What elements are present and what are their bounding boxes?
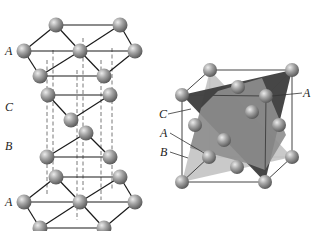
atom — [230, 160, 244, 174]
plane-label-a-left: A — [159, 126, 168, 140]
atom — [259, 89, 273, 103]
atom — [17, 195, 32, 210]
atom — [202, 150, 216, 164]
atom — [231, 80, 245, 94]
atom — [217, 133, 231, 147]
atom — [258, 175, 272, 189]
layer-b-bonds — [47, 133, 110, 157]
atom — [97, 69, 112, 84]
atom — [33, 221, 48, 232]
atom — [175, 88, 189, 102]
plane-label-a-right: A — [302, 86, 311, 100]
atom — [188, 118, 202, 132]
atom — [49, 170, 64, 185]
atom — [128, 44, 143, 59]
atom — [203, 63, 217, 77]
layer-label-c: C — [5, 100, 14, 114]
atom — [175, 175, 189, 189]
layer-label-a-top: A — [4, 44, 13, 58]
stacking-diagram: A C B A — [0, 0, 323, 231]
atom — [49, 18, 64, 33]
atom — [245, 105, 259, 119]
layer-b-atoms — [40, 126, 118, 165]
layer-label-b: B — [5, 139, 13, 153]
atom — [73, 44, 88, 59]
atom — [272, 118, 286, 132]
atom — [73, 195, 88, 210]
atom — [40, 150, 55, 165]
plane-label-b: B — [160, 145, 168, 159]
atom — [103, 88, 118, 103]
layer-c-atoms — [41, 88, 118, 128]
layer-a-bottom-atoms — [17, 170, 143, 232]
layer-label-a-bottom: A — [4, 195, 13, 209]
fcc-cube-panel: C A B A — [159, 63, 311, 189]
atom — [285, 63, 299, 77]
atom — [113, 18, 128, 33]
atom — [17, 44, 32, 59]
atom — [128, 195, 143, 210]
atom — [64, 113, 79, 128]
atom — [103, 150, 118, 165]
atom — [79, 126, 94, 141]
atom — [285, 150, 299, 164]
left-stacking-panel: A C B A — [4, 18, 143, 232]
atom — [33, 69, 48, 84]
atom — [41, 88, 56, 103]
atom — [113, 170, 128, 185]
plane-label-c: C — [159, 107, 168, 121]
